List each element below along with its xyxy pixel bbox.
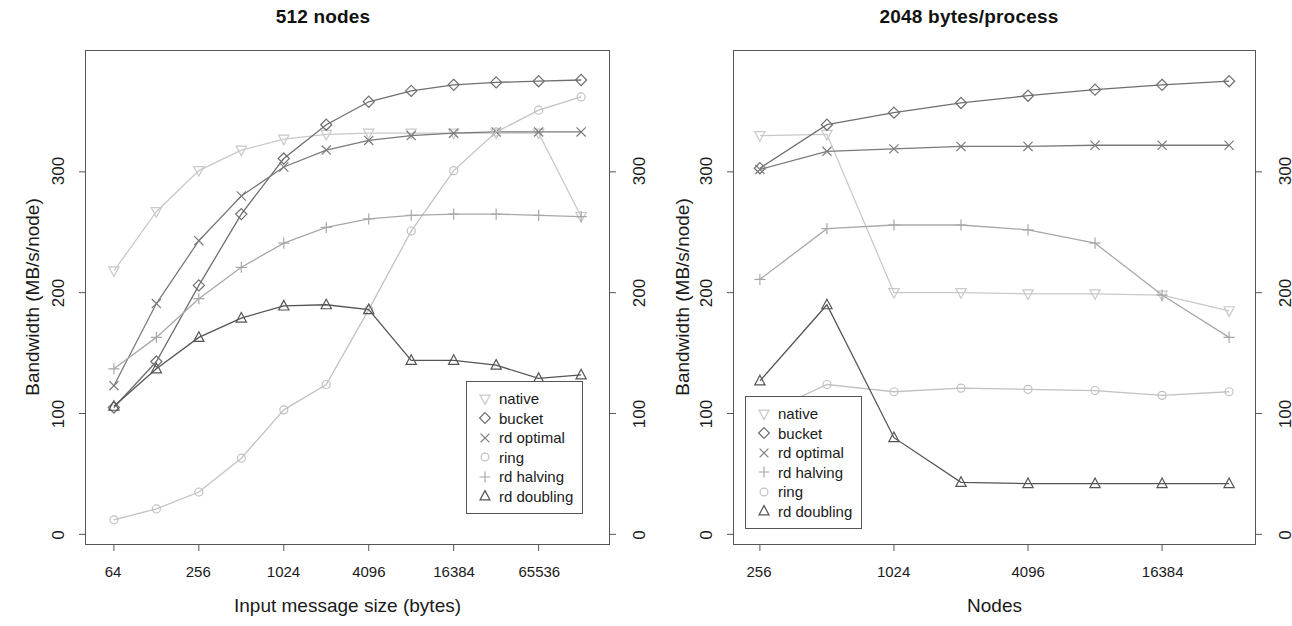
legend-item-rd-optimal[interactable]: rd optimal (753, 443, 852, 463)
legend-symbol-rd-optimal (753, 444, 775, 462)
legend-label-ring: ring (778, 483, 803, 500)
x-tick-label-right-0: 256 (746, 563, 771, 580)
y-tick-label-right-right-1: 100 (1276, 392, 1292, 436)
legend-symbol-ring (753, 483, 775, 501)
y-tick-label-right-3: 300 (697, 149, 717, 193)
legend-label-native: native (499, 390, 539, 407)
legend-symbol-rd-halving (753, 463, 775, 481)
legend-label-rd-halving: rd halving (778, 464, 843, 481)
y-axis-title-left: Bandwidth (MB/s/node) (21, 49, 43, 544)
legend-item-bucket[interactable]: bucket (753, 424, 852, 444)
panel-left-title: 512 nodes (0, 6, 646, 28)
y-tick-label-left-2: 200 (49, 271, 69, 315)
series-rd-halving (754, 219, 1234, 343)
legend-label-ring: ring (499, 449, 524, 466)
legend-item-ring[interactable]: ring (753, 482, 852, 502)
legend-label-bucket: bucket (499, 410, 543, 427)
y-tick-label-right-left-0: 0 (630, 513, 650, 557)
y-tick-label-right-1: 100 (697, 392, 717, 436)
legend-symbol-rd-optimal (474, 429, 496, 447)
y-tick-label-left-3: 300 (49, 149, 69, 193)
legend-label-rd-halving: rd halving (499, 468, 564, 485)
legend-item-native[interactable]: native (753, 404, 852, 424)
legend-symbol-native (753, 405, 775, 423)
y-tick-label-right-right-3: 300 (1276, 149, 1292, 193)
legend-item-rd-optimal[interactable]: rd optimal (474, 428, 573, 448)
legend-left: nativebucketrd optimalringrd halvingrd d… (466, 381, 583, 514)
legend-item-native[interactable]: native (474, 389, 573, 409)
legend-symbol-rd-doubling (474, 487, 496, 505)
legend-symbol-bucket (474, 409, 496, 427)
legend-symbol-rd-halving (474, 468, 496, 486)
panel-left: 512 nodes (0, 0, 646, 626)
x-tick-label-left-5: 65536 (519, 563, 561, 580)
x-tick-label-right-2: 4096 (1011, 563, 1044, 580)
legend-label-rd-doubling: rd doubling (778, 503, 852, 520)
x-tick-label-right-3: 16384 (1142, 563, 1184, 580)
legend-item-rd-doubling[interactable]: rd doubling (474, 487, 573, 507)
y-tick-label-right-0: 0 (697, 513, 717, 557)
legend-right: nativebucketrd optimalrd halvingringrd d… (745, 396, 862, 529)
legend-symbol-ring (474, 448, 496, 466)
legend-item-rd-doubling[interactable]: rd doubling (753, 502, 852, 522)
legend-symbol-native (474, 390, 496, 408)
y-tick-label-right-left-1: 100 (630, 392, 650, 436)
y-tick-label-right-right-0: 0 (1276, 513, 1292, 557)
legend-label-rd-optimal: rd optimal (778, 444, 844, 461)
y-tick-label-right-right-2: 200 (1276, 271, 1292, 315)
x-tick-label-left-2: 1024 (267, 563, 300, 580)
legend-item-rd-halving[interactable]: rd halving (753, 463, 852, 483)
x-axis-title-right: Nodes (967, 595, 1022, 617)
series-rd-optimal (755, 141, 1233, 174)
series-rd-halving (108, 209, 586, 375)
y-tick-label-right-left-2: 200 (630, 271, 650, 315)
legend-item-bucket[interactable]: bucket (474, 409, 573, 429)
x-tick-label-right-1: 1024 (877, 563, 910, 580)
figure-two-panel-line-charts: 512 nodes 2048 bytes/process 00100100200… (0, 0, 1292, 626)
series-native (109, 129, 586, 276)
legend-label-rd-optimal: rd optimal (499, 429, 565, 446)
x-tick-label-left-3: 4096 (352, 563, 385, 580)
legend-item-rd-halving[interactable]: rd halving (474, 467, 573, 487)
x-tick-label-left-1: 256 (186, 563, 211, 580)
y-tick-label-right-2: 200 (697, 271, 717, 315)
legend-label-rd-doubling: rd doubling (499, 488, 573, 505)
panel-right-title: 2048 bytes/process (646, 6, 1292, 28)
x-tick-label-left-0: 64 (105, 563, 122, 580)
legend-label-bucket: bucket (778, 425, 822, 442)
y-tick-label-right-left-3: 300 (630, 149, 650, 193)
y-tick-label-left-0: 0 (49, 513, 69, 557)
x-axis-title-left: Input message size (bytes) (234, 595, 461, 617)
legend-item-ring[interactable]: ring (474, 448, 573, 468)
legend-symbol-rd-doubling (753, 502, 775, 520)
y-axis-title-right: Bandwidth (MB/s/node) (671, 49, 693, 544)
x-tick-label-left-4: 16384 (433, 563, 475, 580)
y-tick-label-left-1: 100 (49, 392, 69, 436)
legend-label-native: native (778, 405, 818, 422)
series-bucket (754, 76, 1234, 174)
legend-symbol-bucket (753, 424, 775, 442)
series-bucket (108, 74, 586, 413)
